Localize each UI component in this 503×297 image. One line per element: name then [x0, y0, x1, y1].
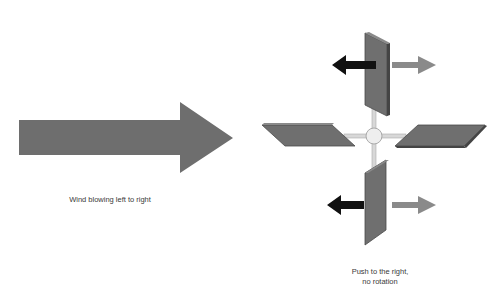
- right-blade-icon: [395, 125, 487, 148]
- left-blade-icon: [262, 123, 355, 146]
- top-right-force-arrow-icon: [392, 56, 436, 74]
- hub-icon: [366, 128, 382, 144]
- top-blade-icon: [365, 32, 390, 116]
- push-caption-line2: no rotation: [320, 277, 440, 287]
- wind-caption: Wind blowing left to right: [40, 195, 180, 205]
- bottom-blade-icon: [365, 160, 389, 245]
- wind-arrow-icon: [19, 102, 233, 173]
- bottom-right-force-arrow-icon: [392, 196, 436, 214]
- push-caption-line1: Push to the right,: [320, 267, 440, 277]
- push-caption: Push to the right, no rotation: [320, 267, 440, 287]
- wind-diagram: [0, 0, 503, 297]
- bottom-left-force-arrow-icon: [327, 195, 364, 215]
